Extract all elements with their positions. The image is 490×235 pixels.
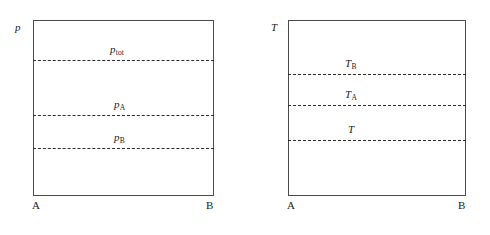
level-label-t-b-subscript: B [351,62,356,71]
level-label-p-a-subscript: A [120,103,125,112]
plot-frame-temperature [288,20,466,196]
level-label-p-tot: ptot [110,44,123,55]
axis-label-temperature: T [271,22,277,33]
level-label-t-a: TA [345,89,357,100]
axis-label-pressure: p [15,22,21,33]
endpoint-label-a-temperature: A [287,200,295,211]
level-line-t-a [288,105,466,106]
level-label-p-a: pA [114,99,125,110]
level-line-p-tot [33,60,214,61]
level-line-t-b [288,74,466,75]
level-label-p-tot-subscript: tot [116,48,124,57]
endpoint-label-a-pressure: A [32,200,40,211]
figure-container: p ptot pA pB A B T TB TA T A B [0,0,490,235]
level-label-p-tot-base: p [110,43,116,55]
level-line-t [288,140,466,141]
level-label-p-b: pB [114,132,125,143]
level-line-p-a [33,115,214,116]
level-label-p-a-base: p [114,98,120,110]
level-label-p-b-base: p [114,131,120,143]
endpoint-label-b-temperature: B [458,200,465,211]
level-label-t: T [348,124,354,135]
endpoint-label-b-pressure: B [206,200,213,211]
panel-pressure: p ptot pA pB A B [0,0,245,235]
level-label-t-a-subscript: A [351,93,356,102]
level-label-t-base: T [348,123,354,135]
panel-temperature: T TB TA T A B [245,0,490,235]
level-label-p-b-subscript: B [120,136,125,145]
level-label-t-b: TB [345,58,356,69]
level-line-p-b [33,148,214,149]
